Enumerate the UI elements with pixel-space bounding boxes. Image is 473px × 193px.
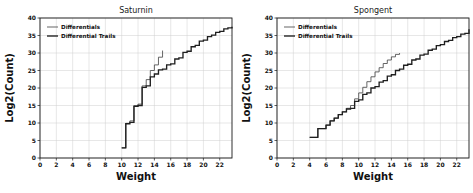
x-tick-label: 20 [199, 161, 207, 168]
y-tick-label: 15 [28, 102, 36, 109]
y-tick-label: 0 [268, 154, 272, 161]
x-tick-label: 4 [71, 161, 75, 168]
x-tick-label: 10 [354, 161, 362, 168]
x-tick-label: 12 [134, 161, 142, 168]
series-line-differential-trails [309, 29, 468, 137]
figure-two-panel-step-charts: 02468101214161820220510152025303540Satur… [0, 0, 473, 193]
x-tick-label: 14 [387, 161, 395, 168]
x-tick-label: 8 [103, 161, 107, 168]
x-tick-label: 6 [323, 161, 327, 168]
x-tick-label: 22 [216, 161, 224, 168]
y-axis-label: Log2(Count) [241, 53, 252, 123]
x-tick-label: 0 [38, 161, 42, 168]
y-tick-label: 5 [32, 137, 36, 144]
x-tick-label: 20 [436, 161, 444, 168]
y-tick-label: 10 [28, 119, 36, 126]
x-tick-label: 2 [54, 161, 58, 168]
chart-title: Spongent [353, 6, 391, 15]
y-tick-label: 25 [264, 67, 272, 74]
y-tick-label: 20 [264, 84, 272, 91]
x-tick-label: 14 [150, 161, 158, 168]
x-tick-label: 22 [452, 161, 460, 168]
y-tick-label: 30 [264, 49, 272, 56]
legend-label-1: Differentials [298, 24, 338, 30]
y-tick-label: 5 [268, 137, 272, 144]
x-tick-label: 8 [340, 161, 344, 168]
y-tick-label: 0 [32, 154, 36, 161]
x-tick-label: 16 [167, 161, 175, 168]
x-tick-label: 2 [291, 161, 295, 168]
x-tick-label: 18 [183, 161, 191, 168]
chart-panel-saturnin: 02468101214161820220510152025303540Satur… [0, 0, 237, 193]
series-line-differentials [309, 53, 399, 137]
x-axis-label: Weight [116, 171, 156, 182]
x-tick-label: 10 [118, 161, 126, 168]
legend-label-2: Differential Trails [298, 33, 353, 39]
x-tick-label: 16 [403, 161, 411, 168]
y-tick-label: 20 [28, 84, 36, 91]
x-tick-label: 6 [87, 161, 91, 168]
chart-title: Saturnin [119, 6, 153, 15]
plot-area-saturnin: 02468101214161820220510152025303540Satur… [4, 6, 232, 182]
plot-area-spongent: 02468101214161820220510152025303540Spong… [241, 6, 469, 182]
y-tick-label: 15 [264, 102, 272, 109]
y-axis-label: Log2(Count) [4, 53, 15, 123]
x-tick-label: 4 [307, 161, 311, 168]
x-axis-label: Weight [353, 171, 393, 182]
y-tick-label: 40 [28, 14, 36, 21]
chart-panel-spongent: 02468101214161820220510152025303540Spong… [237, 0, 473, 193]
y-tick-label: 25 [28, 67, 36, 74]
y-tick-label: 35 [28, 32, 36, 39]
x-tick-label: 18 [419, 161, 427, 168]
y-tick-label: 10 [264, 119, 272, 126]
y-tick-label: 35 [264, 32, 272, 39]
x-tick-label: 12 [370, 161, 378, 168]
x-tick-label: 0 [274, 161, 278, 168]
legend-label-2: Differential Trails [61, 33, 116, 39]
y-tick-label: 30 [28, 49, 36, 56]
legend-label-1: Differentials [61, 24, 101, 30]
y-tick-label: 40 [264, 14, 272, 21]
